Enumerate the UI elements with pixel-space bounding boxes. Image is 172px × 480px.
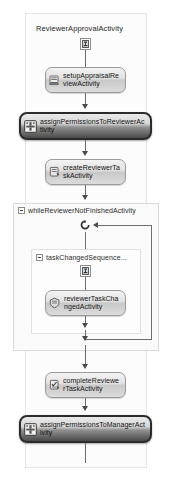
arrowhead-into-create-task [82,151,88,156]
arrowhead-into-assign-manager [82,406,88,411]
activity-setup-appraisal-review[interactable]: setupAppraisalReviewActivity [45,67,126,93]
workflow-canvas[interactable]: ReviewerApprovalActivity setupAppraisalR… [0,0,172,480]
connector-loop-to-sequence [85,232,86,250]
while-container-header[interactable]: whileReviewerNotFinishedActivity [18,207,136,214]
sequence-container-label: taskChangedSequence... [46,254,127,261]
loop-back-bottom-segment [85,339,152,340]
workflow-start-icon[interactable] [80,38,91,50]
activity-label: reviewerTaskChangedActivity [64,295,121,312]
code-activity-icon [49,74,60,86]
activity-label: completeReviewerTaskActivity [63,377,121,394]
activity-label: assignPermissionsToManagerActivity [40,421,146,438]
sequence-start-icon[interactable] [80,265,91,277]
sequence-expander-icon[interactable] [36,254,43,261]
event-handler-icon [49,297,61,309]
loop-arrow-icon [80,220,91,231]
sequence-container-header[interactable]: taskChangedSequence... [36,254,127,261]
arrowhead-into-complete-task [82,364,88,369]
task-activity-icon [49,166,60,178]
activity-label: assignPermissionsToReviewerActivity [40,118,146,135]
activity-label: createReviewerTaskActivity [63,164,121,181]
activity-assign-permissions-to-manager[interactable]: assignPermissionsToManagerActivity [19,415,152,443]
connector-assign-manager-to-end [85,443,86,463]
activity-complete-reviewer-task[interactable]: completeReviewerTaskActivity [45,372,126,398]
arrowhead-while-exit [82,336,88,341]
connector-sequence-marker-to-reviewer-task [85,277,86,291]
arrowhead-into-assign-reviewer [82,104,88,109]
while-container-label: whileReviewerNotFinishedActivity [28,207,136,214]
activity-create-reviewer-task[interactable]: createReviewerTaskActivity [45,159,126,185]
arrowhead-into-while [82,195,88,200]
arrowhead-sequence-exit [82,323,88,328]
page-title: ReviewerApprovalActivity [36,24,123,33]
activity-reviewer-task-changed[interactable]: reviewerTaskChangedActivity [45,290,126,316]
while-expander-icon[interactable] [18,207,25,214]
custom-activity-icon [24,120,37,133]
loop-back-right-segment [151,225,152,339]
custom-activity-icon [24,423,37,436]
activity-label: setupAppraisalReviewActivity [63,72,121,89]
complete-task-icon [49,379,60,391]
loop-back-top-segment [97,225,152,226]
activity-assign-permissions-to-reviewer[interactable]: assignPermissionsToReviewerActivity [19,112,152,140]
